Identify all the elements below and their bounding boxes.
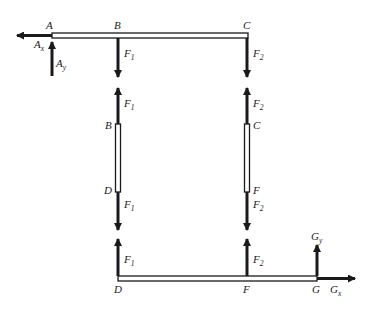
label-f1: F1 — [123, 47, 134, 62]
label-d: D — [103, 184, 112, 196]
label-d: D — [113, 283, 122, 295]
label-f1: F1 — [123, 97, 134, 112]
label-f2: F2 — [252, 253, 264, 268]
label-ax: Ax — [33, 38, 45, 53]
label-f1: F1 — [123, 198, 134, 213]
beam-abc — [52, 33, 248, 38]
member-cf-rect — [245, 124, 250, 192]
label-f2: F2 — [252, 47, 264, 62]
bottom-beam: D F G F1 F2 Gy Gx — [113, 230, 355, 298]
label-f: F — [242, 283, 250, 295]
label-a: A — [45, 19, 53, 31]
label-f: F — [252, 184, 260, 196]
label-b: B — [114, 19, 121, 31]
beam-dfg — [118, 276, 317, 281]
free-body-diagram: A B C Ax Ay F1 F2 F1 B D F1 F2 C F F2 — [0, 0, 371, 317]
member-cf: F2 C F F2 — [245, 88, 264, 230]
label-c: C — [253, 119, 261, 131]
label-ay: Ay — [55, 57, 67, 72]
label-g: G — [312, 283, 320, 295]
label-gy: Gy — [311, 230, 323, 245]
member-bd: F1 B D F1 — [103, 88, 134, 230]
label-f2: F2 — [252, 97, 264, 112]
top-beam: A B C Ax Ay F1 F2 — [17, 19, 264, 77]
label-f2: F2 — [252, 198, 264, 213]
member-bd-rect — [116, 124, 121, 192]
label-gx: Gx — [330, 283, 342, 298]
label-c: C — [243, 19, 251, 31]
label-b: B — [105, 119, 112, 131]
label-f1: F1 — [123, 253, 134, 268]
